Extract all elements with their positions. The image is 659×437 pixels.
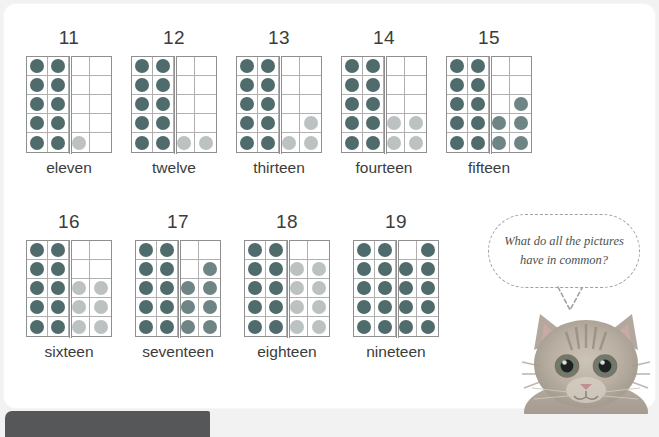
dot-empty [282,78,296,92]
dot-cell [300,133,321,152]
dot-cell [489,133,510,152]
dot-filled [203,281,217,295]
dot-empty [181,243,195,257]
dot-filled [160,320,174,334]
word-label: fifteen [468,160,510,176]
dot-cell [510,76,531,95]
dot-filled [409,136,423,150]
dot-cell [48,114,69,133]
dot-filled [345,97,359,111]
dot-cell [48,279,69,298]
dot-cell [258,76,279,95]
dot-cell [199,279,220,298]
dot-cell [245,279,266,298]
dot-filled [421,243,435,257]
dot-cell [174,114,195,133]
dot-cell [363,114,384,133]
word-label: nineteen [366,344,425,360]
bottom-progress-bar[interactable] [5,411,210,437]
dot-cell [48,57,69,76]
dot-cell [396,298,417,317]
dot-filled [199,136,213,150]
dot-filled [345,136,359,150]
dot-cell [136,260,157,279]
dot-filled [181,320,195,334]
dot-filled [471,116,485,130]
dot-filled [261,97,275,111]
dot-cell [199,317,220,336]
dot-cell [69,57,90,76]
dot-cell [27,114,48,133]
dot-cell [258,57,279,76]
dot-cell [48,95,69,114]
dot-cell [27,133,48,152]
dot-empty [199,59,213,73]
dot-cell [153,114,174,133]
dot-filled [72,320,86,334]
dot-filled [177,136,191,150]
dot-empty [72,262,86,276]
dot-cell [178,317,199,336]
dot-empty [387,97,401,111]
dot-cell [237,114,258,133]
dot-grid-13 [236,56,322,153]
dot-cell [417,260,438,279]
dot-filled [30,243,44,257]
dot-filled [51,136,65,150]
dot-cell [396,279,417,298]
dot-cell [153,76,174,95]
dot-empty [199,78,213,92]
dot-cell [468,133,489,152]
dot-cell [300,76,321,95]
dot-cell [174,57,195,76]
dot-cell [396,241,417,260]
dot-cell [510,114,531,133]
dot-filled [30,97,44,111]
dot-cell [375,279,396,298]
dot-cell [354,317,375,336]
dot-cell [266,279,287,298]
dot-filled [203,262,217,276]
dot-filled [421,320,435,334]
dot-cell [48,133,69,152]
dot-empty [72,59,86,73]
dot-cell [27,76,48,95]
dot-cell [157,317,178,336]
number-card-19: 19nineteen [353,212,439,360]
dot-filled [471,59,485,73]
dot-cell [174,95,195,114]
dot-empty [72,243,86,257]
dot-filled [378,281,392,295]
dot-cell [90,317,111,336]
dot-cell [237,57,258,76]
dot-cell [308,298,329,317]
number-label: 17 [167,212,189,231]
dot-filled [269,300,283,314]
dot-cell [447,95,468,114]
dot-filled [269,281,283,295]
dot-cell [354,260,375,279]
dot-filled [139,300,153,314]
dot-cell [279,76,300,95]
dot-filled [357,281,371,295]
number-grid-row-1: 11eleven12twelve13thirteen14fourteen15fi… [26,28,532,176]
speech-bubble: What do all the pictures have in common? [488,214,640,288]
dot-cell [510,95,531,114]
dot-empty [282,59,296,73]
dot-cell [90,260,111,279]
dot-empty [304,59,318,73]
dot-filled [450,136,464,150]
dot-filled [366,97,380,111]
dot-cell [178,241,199,260]
dot-empty [94,97,108,111]
dot-empty [514,78,528,92]
dot-filled [240,78,254,92]
word-label: twelve [152,160,196,176]
dot-filled [94,320,108,334]
dot-filled [269,320,283,334]
dot-cell [384,76,405,95]
word-label: seventeen [142,344,214,360]
dot-cell [245,298,266,317]
dot-filled [357,243,371,257]
dot-cell [90,298,111,317]
